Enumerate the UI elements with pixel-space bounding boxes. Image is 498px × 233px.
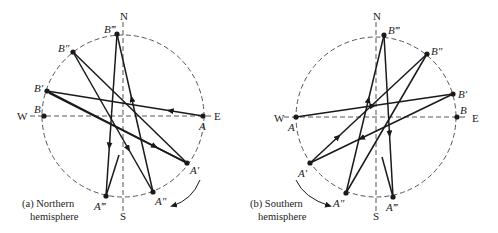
point-label-b: B — [34, 103, 41, 115]
point-b1 — [450, 91, 455, 96]
panel-caption-line2: hemisphere — [30, 211, 79, 222]
path-segment — [49, 93, 187, 163]
cardinal-label-n: N — [120, 10, 128, 22]
point-b2 — [70, 49, 75, 54]
point-label-b3: B‴ — [388, 24, 401, 36]
path-segment — [346, 35, 384, 193]
cardinal-label-w: W — [17, 110, 28, 122]
cardinal-label-e: E — [472, 112, 479, 124]
point-b3 — [381, 32, 386, 37]
southern-hemisphere-panel: NSEWAA′A″A‴BB′B″B‴(b) Southernhemisphere — [250, 10, 479, 222]
point-label-a: A — [198, 120, 206, 132]
point-label-a1: A′ — [297, 167, 308, 179]
point-a — [293, 114, 298, 119]
point-a — [200, 113, 205, 118]
point-label-a3: A‴ — [385, 201, 399, 213]
point-label-b2: B″ — [58, 42, 70, 54]
point-a3 — [390, 194, 395, 199]
point-b2 — [424, 51, 429, 56]
point-a3 — [103, 193, 108, 198]
point-label-b1: B′ — [458, 88, 468, 100]
cardinal-label-s: S — [373, 210, 379, 222]
point-label-b3: B‴ — [104, 23, 117, 35]
panel-caption-line2: hemisphere — [258, 211, 307, 222]
cardinal-label-w: W — [274, 112, 285, 124]
path-segment — [106, 34, 117, 196]
point-a2 — [150, 189, 155, 194]
path-segment — [73, 52, 153, 192]
point-label-a2: A″ — [332, 197, 345, 209]
point-label-a: A — [287, 121, 295, 133]
path-segment — [117, 34, 153, 192]
path-segment — [73, 52, 187, 163]
cardinal-label-n: N — [373, 10, 381, 22]
point-b — [454, 114, 459, 119]
point-label-b1: B′ — [34, 82, 44, 94]
rotation-direction-arrow-icon — [172, 180, 200, 206]
point-label-a1: A′ — [189, 164, 200, 176]
northern-hemisphere-panel: NSEWAA′A″A‴BB′B″B‴(a) Northernhemisphere — [17, 10, 221, 222]
celestial-diagram: NSEWAA′A″A‴BB′B″B‴(a) Northernhemisphere… — [0, 0, 498, 233]
panel-caption-line1: (a) Northern — [22, 198, 75, 210]
cardinal-label-s: S — [120, 210, 126, 222]
point-b — [41, 113, 46, 118]
panel-caption-line1: (b) Southern — [250, 198, 304, 210]
point-label-a2: A″ — [154, 195, 167, 207]
point-label-a3: A‴ — [93, 200, 107, 212]
cardinal-label-e: E — [214, 110, 221, 122]
point-a2 — [343, 190, 348, 195]
point-b1 — [44, 88, 49, 93]
path-segment — [310, 54, 427, 163]
point-a1 — [184, 160, 189, 165]
point-label-b2: B″ — [431, 45, 443, 57]
point-label-b: B — [460, 104, 467, 116]
point-a1 — [307, 160, 312, 165]
